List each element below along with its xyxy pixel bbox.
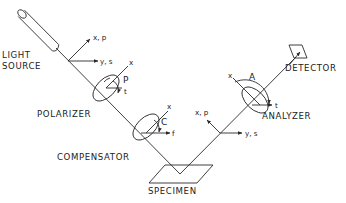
- analyzer-angle-label: A: [249, 72, 256, 82]
- compensator-f-label: f: [172, 129, 175, 138]
- light-source-icon: [16, 8, 59, 51]
- light-source-label-line2: SOURCE: [2, 61, 41, 71]
- light-source-label-line1: LIGHT: [2, 50, 31, 60]
- incident-axes: x, p y, s: [68, 33, 113, 66]
- incident-xp-label: x, p: [93, 33, 107, 42]
- compensator-icon: x f C: [128, 102, 175, 145]
- polarizer-angle-label: P: [123, 75, 129, 85]
- reflected-ys-label: y, s: [245, 129, 258, 138]
- polarizer-label: POLARIZER: [37, 109, 91, 119]
- incident-ys-label: y, s: [100, 57, 113, 66]
- detector-label: DETECTOR: [285, 63, 337, 73]
- analyzer-t-label: t: [275, 101, 278, 110]
- compensator-angle-label: C: [161, 117, 167, 127]
- analyzer-x-label: x: [228, 71, 233, 80]
- compensator-label: COMPENSATOR: [57, 152, 130, 162]
- polarizer-t-label: t: [124, 87, 127, 96]
- compensator-x-label: x: [167, 102, 172, 111]
- polarizer-x-label: x: [129, 58, 134, 67]
- analyzer-label: ANALYZER: [262, 111, 311, 121]
- reflected-axes: x, p y, s: [195, 108, 258, 138]
- specimen-label: SPECIMEN: [148, 186, 197, 196]
- reflected-xp-label: x, p: [195, 108, 209, 117]
- specimen-icon: [149, 165, 213, 183]
- ellipsometer-diagram: x, p y, s LIGHT SOURCE x t P POLARIZER x…: [0, 0, 346, 203]
